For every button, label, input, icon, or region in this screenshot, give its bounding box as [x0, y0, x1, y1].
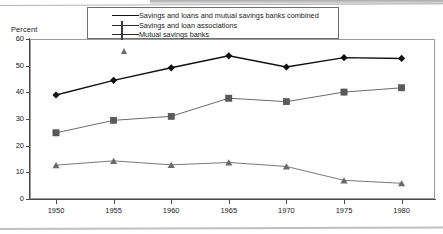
legend-item-savings-loan: Savings and loan associations — [112, 21, 338, 30]
legend-key-square — [112, 21, 139, 30]
square-marker-icon — [341, 89, 347, 95]
y-tick-label: 50 — [2, 61, 24, 70]
x-tick-label: 1950 — [41, 206, 71, 215]
chart-series-canvas — [30, 39, 435, 199]
square-marker-icon — [111, 117, 117, 123]
chart-legend: Savings and loans and mutual savings ban… — [87, 7, 339, 39]
series-line — [56, 56, 402, 95]
y-tick-label: 20 — [2, 141, 24, 150]
plot-area — [30, 39, 435, 199]
x-tick-label: 1980 — [387, 206, 417, 215]
y-tick-mark — [26, 172, 30, 173]
diamond-marker-icon — [110, 77, 117, 84]
legend-item-mutual-savings: Mutual savings banks — [112, 30, 338, 39]
x-tick-mark — [56, 200, 57, 204]
y-tick-mark — [26, 199, 30, 200]
x-tick-label: 1975 — [329, 206, 359, 215]
y-tick-mark — [26, 92, 30, 93]
square-marker-icon — [53, 130, 59, 136]
x-tick-label: 1955 — [99, 206, 129, 215]
x-tick-label: 1965 — [214, 206, 244, 215]
x-tick-label: 1960 — [156, 206, 186, 215]
legend-item-combined: Savings and loans and mutual savings ban… — [112, 11, 338, 20]
x-tick-mark — [402, 200, 403, 204]
legend-key-triangle — [112, 30, 139, 39]
square-marker-icon — [168, 113, 174, 119]
legend-label-savings-loan: Savings and loan associations — [139, 21, 237, 30]
x-tick-label: 1970 — [271, 206, 301, 215]
y-tick-mark — [26, 119, 30, 120]
legend-label-mutual-savings: Mutual savings banks — [139, 30, 209, 39]
diamond-marker-icon — [398, 55, 405, 62]
square-marker-icon — [226, 95, 232, 101]
x-tick-mark — [286, 200, 287, 204]
y-tick-mark — [26, 39, 30, 40]
scan-rule-bottom — [0, 227, 443, 230]
diamond-marker-icon — [168, 64, 175, 71]
x-tick-mark — [229, 200, 230, 204]
legend-label-combined: Savings and loans and mutual savings ban… — [139, 11, 319, 20]
series-line — [56, 88, 402, 133]
diamond-marker-icon — [225, 52, 232, 59]
series-3 — [52, 158, 405, 187]
x-tick-mark — [344, 200, 345, 204]
x-tick-mark — [114, 200, 115, 204]
y-tick-label: 40 — [2, 87, 24, 96]
y-tick-label: 0 — [2, 194, 24, 203]
y-tick-label: 30 — [2, 114, 24, 123]
y-tick-mark — [26, 146, 30, 147]
y-axis-tick-labels: 0102030405060 — [0, 0, 24, 234]
y-tick-label: 60 — [2, 34, 24, 43]
square-marker-icon — [283, 99, 289, 105]
x-tick-mark — [171, 200, 172, 204]
diamond-marker-icon — [52, 91, 59, 98]
series-2 — [53, 85, 405, 136]
y-tick-label: 10 — [2, 167, 24, 176]
y-tick-mark — [26, 66, 30, 67]
diamond-marker-icon — [283, 63, 290, 70]
triangle-marker-icon — [121, 31, 127, 54]
legend-key-diamond — [112, 11, 139, 20]
diamond-marker-icon — [340, 54, 347, 61]
square-marker-icon — [399, 85, 405, 91]
x-axis-line — [29, 199, 436, 200]
